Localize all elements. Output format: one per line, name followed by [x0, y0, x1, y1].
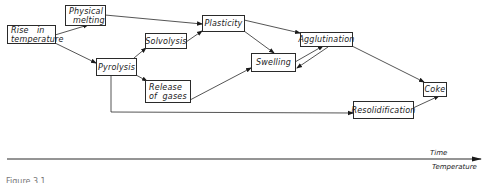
edge-melting-plasticity: [105, 15, 202, 24]
connector-layer: [0, 0, 491, 183]
node-release-of-gases: Release of gases: [145, 80, 191, 103]
node-agglutination: Agglutination: [300, 32, 353, 47]
axis-label-time: Time: [430, 149, 447, 157]
node-label: Plasticity: [205, 19, 243, 28]
node-plasticity: Plasticity: [202, 15, 245, 32]
edge-agglutination-coke: [352, 46, 424, 82]
axis-label-temperature: Temperature: [432, 163, 477, 171]
node-coke: Coke: [423, 82, 447, 97]
edge-plasticity-swelling: [244, 31, 274, 53]
node-physical-melting: Physical melting: [65, 5, 106, 26]
node-label-line: temperature: [11, 35, 64, 44]
edge-resolidification-coke: [413, 96, 439, 108]
node-label-line: of gases: [149, 92, 187, 101]
node-label: Solvolysis: [145, 37, 186, 46]
figure-caption: Figure 3.1: [6, 177, 46, 183]
node-label: Coke: [425, 85, 446, 94]
edge-solvolysis-plasticity: [186, 31, 202, 42]
node-pyrolysis: Pyrolysis: [96, 58, 137, 76]
node-label: Agglutination: [298, 35, 354, 44]
node-rise-in-temperature: Rise in temperature: [7, 25, 56, 44]
edge-pyrolysis-solvolysis: [134, 48, 146, 58]
node-label-line: Rise in: [11, 26, 64, 35]
node-label-line: Release: [149, 83, 187, 92]
node-solvolysis: Solvolysis: [145, 33, 187, 49]
edge-agglutination-swelling: [297, 47, 328, 68]
node-label: Swelling: [256, 58, 291, 67]
node-label: Resolidification: [351, 106, 415, 115]
edge-gases-swelling: [190, 68, 251, 100]
edge-rise-pyrolysis: [55, 43, 96, 63]
node-swelling: Swelling: [251, 53, 296, 72]
edge-plasticity-agglutination: [244, 20, 300, 33]
node-resolidification: Resolidification: [353, 101, 414, 119]
node-label-line: Physical: [69, 7, 105, 16]
node-label-line: melting: [69, 16, 105, 25]
node-label: Pyrolysis: [98, 63, 135, 72]
